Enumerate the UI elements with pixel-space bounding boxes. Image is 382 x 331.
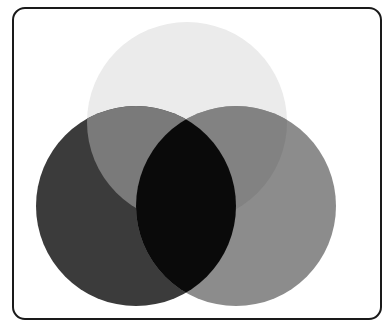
venn-diagram: [0, 0, 356, 331]
